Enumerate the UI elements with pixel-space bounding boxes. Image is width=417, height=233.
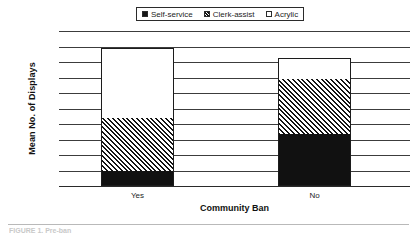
gridline [59,31,410,32]
x-tick-label-yes: Yes [101,191,174,200]
bar-segment-clerk-assist [101,118,174,171]
bar-segment-self-service [278,134,351,186]
gridline [59,186,410,187]
bar-segment-acrylic [101,48,174,118]
legend-label-self-service: Self-service [151,10,193,19]
open-white-swatch-icon [266,11,272,17]
solid-black-swatch-icon [142,11,148,17]
bar-segment-self-service [101,171,174,186]
x-tick-label-no: No [278,191,351,200]
chart-legend: Self-service Clerk-assist Acrylic [136,7,304,21]
stacked-bar-yes [101,48,174,186]
figure-caption: FIGURE 1. Pre-ban [9,227,259,233]
y-axis-title: Mean No. of Displays [25,31,39,186]
bar-segment-clerk-assist [278,79,351,134]
legend-label-clerk-assist: Clerk-assist [213,10,255,19]
hatched-swatch-icon [204,11,210,17]
plot-area: Mean No. of Displays 54.543.532.521.510.… [59,31,410,186]
stacked-bar-no [278,58,351,186]
legend-label-acrylic: Acrylic [275,10,299,19]
legend-item-clerk-assist: Clerk-assist [204,10,255,19]
legend-item-self-service: Self-service [142,10,193,19]
bar-segment-acrylic [278,58,351,79]
legend-item-acrylic: Acrylic [266,10,299,19]
footer-divider [8,224,409,225]
x-axis-title: Community Ban [59,203,410,214]
